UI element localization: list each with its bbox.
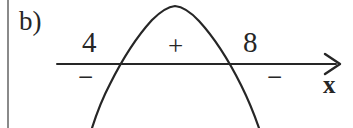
part-label: b) <box>19 8 42 35</box>
sign-middle-label: + <box>168 33 183 60</box>
x-axis-label: x <box>323 72 336 97</box>
parabola-curve <box>92 6 259 128</box>
sign-analysis-diagram <box>0 0 353 128</box>
sign-right-label: − <box>267 64 282 91</box>
figure-canvas: b) 4 + 8 − − x <box>0 0 353 128</box>
root-left-label: 4 <box>82 28 97 57</box>
sign-left-label: − <box>78 64 93 91</box>
root-right-label: 8 <box>243 28 258 57</box>
